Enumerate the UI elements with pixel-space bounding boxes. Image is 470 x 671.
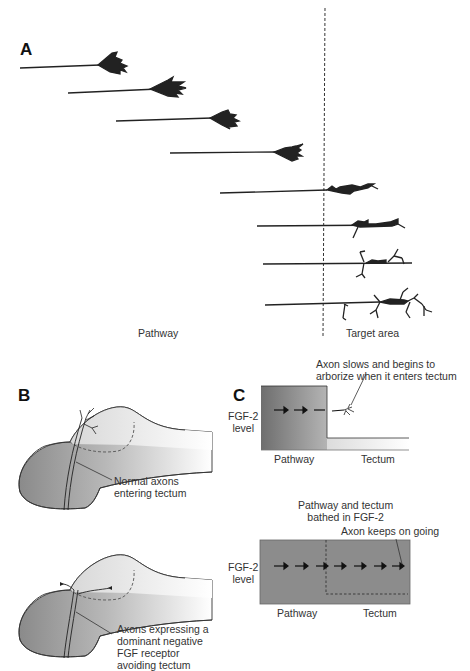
tectum-label-bottom: Tectum <box>363 607 397 619</box>
panel-a: A <box>0 0 470 340</box>
axon-keeps-going-annotation: Axon keeps on going <box>341 525 439 537</box>
normal-axons-caption: Normal axons entering tectum <box>114 475 186 499</box>
panel-b: B <box>0 380 230 670</box>
target-area-label: Target area <box>346 327 399 339</box>
fgf2-step-chart <box>261 374 409 450</box>
pathway-label-top: Pathway <box>274 453 314 465</box>
pathway-label: Pathway <box>138 327 178 339</box>
panel-c: C Axon slows and begins to arborize when… <box>230 355 470 670</box>
pathway-label-bottom: Pathway <box>277 607 317 619</box>
fgf2-level-label-bottom: FGF-2 level <box>228 561 254 585</box>
fgf2-uniform-chart <box>260 539 410 604</box>
bathed-title: Pathway and tectum bathed in FGF-2 <box>298 499 393 523</box>
tectum-label-top: Tectum <box>361 453 395 465</box>
boundary-dashed-line <box>323 8 325 338</box>
growth-cone-diagram <box>0 0 470 340</box>
dominant-negative-caption: Axons expressing a dominant negative FGF… <box>117 623 209 671</box>
